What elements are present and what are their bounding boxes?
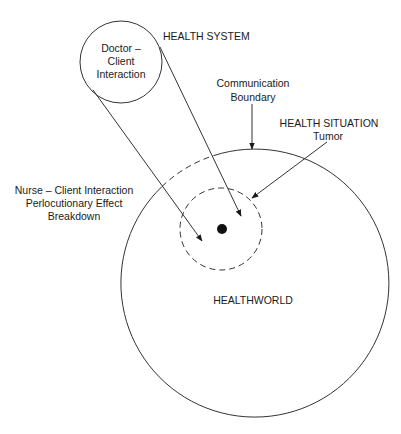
doctor-label-line1: Doctor – <box>101 42 141 54</box>
nurse-interaction-arrow <box>93 90 202 241</box>
communication-boundary-line1: Communication <box>217 77 290 89</box>
communication-boundary-line2: Boundary <box>231 91 277 103</box>
nurse-label-line1: Nurse – Client Interaction <box>15 184 134 196</box>
healthworld-circle-dashed-segment <box>162 156 214 187</box>
healthworld-circle-solid <box>121 149 389 417</box>
nurse-label-line3: Breakdown <box>48 210 101 222</box>
health-situation-label: HEALTH SITUATION <box>280 117 379 129</box>
tumor-dot <box>217 224 227 234</box>
health-system-label: HEALTH SYSTEM <box>163 30 250 42</box>
health-situation-arrow <box>252 142 327 198</box>
doctor-label-line3: Interaction <box>96 68 145 80</box>
healthworld-label: HEALTHWORLD <box>213 294 293 306</box>
diagram-canvas: Doctor – Client Interaction HEALTH SYSTE… <box>0 0 401 434</box>
doctor-label-line2: Client <box>108 55 135 67</box>
nurse-label-line2: Perlocutionary Effect <box>26 197 123 209</box>
doctor-interaction-arrow <box>160 47 241 216</box>
tumor-label: Tumor <box>313 130 343 142</box>
